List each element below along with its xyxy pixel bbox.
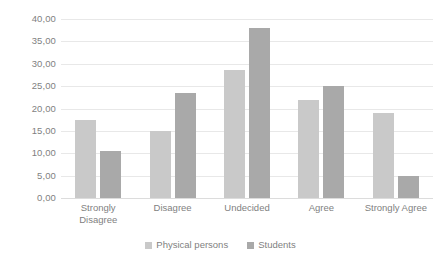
y-tick-label: 30,00 [0, 59, 56, 69]
y-tick-label: 35,00 [0, 36, 56, 46]
bar-group [284, 19, 358, 198]
bar[interactable] [100, 151, 121, 198]
y-tick-label: 10,00 [0, 148, 56, 158]
bar[interactable] [75, 120, 96, 198]
bar-group [210, 19, 284, 198]
legend: Physical personsStudents [0, 240, 441, 250]
legend-item[interactable]: Students [247, 240, 296, 250]
legend-swatch-icon [145, 242, 152, 249]
y-tick-label: 0,00 [0, 193, 56, 203]
bar-chart: 0,005,0010,0015,0020,0025,0030,0035,0040… [0, 0, 441, 267]
x-tick-label: Strongly Agree [359, 202, 433, 225]
bar[interactable] [175, 93, 196, 198]
x-tick-label: Strongly Disagree [61, 202, 135, 225]
bar[interactable] [373, 113, 394, 198]
legend-swatch-icon [247, 242, 254, 249]
bars-layer [61, 19, 433, 198]
bar[interactable] [224, 70, 245, 198]
y-tick-label: 40,00 [0, 14, 56, 24]
y-tick-label: 5,00 [0, 171, 56, 181]
bar-group [135, 19, 209, 198]
legend-label: Physical persons [156, 240, 228, 250]
bar[interactable] [298, 100, 319, 198]
y-axis: 0,005,0010,0015,0020,0025,0030,0035,0040… [0, 0, 56, 267]
legend-item[interactable]: Physical persons [145, 240, 228, 250]
y-tick-label: 25,00 [0, 81, 56, 91]
bar-group [359, 19, 433, 198]
y-tick-label: 15,00 [0, 126, 56, 136]
bar-group [61, 19, 135, 198]
x-tick-label: Undecided [210, 202, 284, 225]
bar[interactable] [398, 176, 419, 198]
x-tick-label: Disagree [135, 202, 209, 225]
y-tick-label: 20,00 [0, 104, 56, 114]
bar[interactable] [249, 28, 270, 198]
bar[interactable] [150, 131, 171, 198]
x-axis: Strongly DisagreeDisagreeUndecidedAgreeS… [61, 202, 433, 225]
legend-label: Students [258, 240, 296, 250]
bar[interactable] [323, 86, 344, 198]
gridline [61, 198, 433, 199]
x-tick-label: Agree [284, 202, 358, 225]
